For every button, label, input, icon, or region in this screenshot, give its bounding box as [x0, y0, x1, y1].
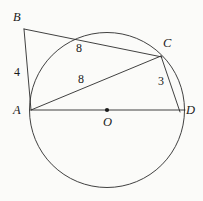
length-label-BC: 8	[76, 42, 82, 54]
center-label-O: O	[103, 116, 112, 129]
length-label-CD: 3	[158, 75, 164, 87]
length-label-BA: 4	[14, 66, 20, 78]
geometry-figure: B C A D O 4 8 8 3	[0, 0, 203, 201]
segment-BC	[24, 29, 162, 57]
geometry-canvas	[0, 0, 203, 201]
segment-BA	[24, 29, 31, 110]
point-label-A: A	[13, 104, 21, 117]
length-label-AC: 8	[78, 73, 84, 85]
point-label-D: D	[186, 104, 195, 117]
point-label-C: C	[163, 37, 171, 50]
point-label-B: B	[13, 11, 21, 24]
center-point-dot	[105, 108, 109, 112]
segment-AC	[31, 56, 161, 110]
